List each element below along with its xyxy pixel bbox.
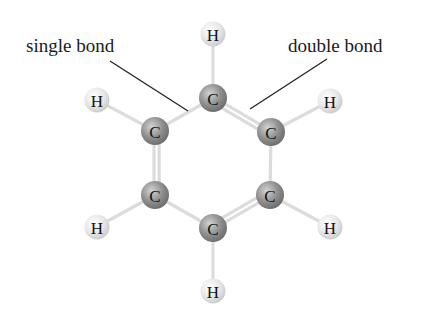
carbon-atom: C [257, 118, 285, 146]
hydrogen-atom: H [85, 88, 110, 113]
benzene-diagram: HCCCCCCHHHHH single bond double bond [0, 0, 430, 327]
atom-symbol: H [207, 283, 219, 302]
hydrogen-atom: H [318, 89, 343, 114]
hydrogen-atom: H [201, 279, 226, 304]
hydrogen-atom: H [85, 215, 110, 240]
atom-symbol: H [91, 219, 103, 238]
single-bond-leader [110, 61, 188, 111]
carbon-atom: C [141, 181, 169, 209]
atom-symbol: C [149, 187, 160, 206]
single-bond-label: single bond [26, 35, 115, 56]
hydrogen-atom: H [318, 215, 343, 240]
atom-symbol: H [324, 93, 336, 112]
molecule-svg: HCCCCCCHHHHH single bond double bond [0, 0, 430, 327]
atom-symbol: H [91, 92, 103, 111]
atom-symbol: H [324, 219, 336, 238]
atom-symbol: C [149, 123, 160, 142]
bonds-layer [97, 34, 330, 291]
atom-symbol: C [207, 220, 218, 239]
carbon-atom: C [199, 84, 227, 112]
carbon-atom: C [141, 117, 169, 145]
atom-symbol: C [264, 187, 275, 206]
carbon-atom: C [199, 214, 227, 242]
atom-symbol: C [265, 124, 276, 143]
double-bond-label: double bond [288, 35, 383, 56]
hydrogen-atom: H [201, 22, 226, 47]
double-bond-leader [250, 59, 327, 109]
atom-symbol: H [207, 26, 219, 45]
atom-symbol: C [207, 90, 218, 109]
carbon-atom: C [256, 181, 284, 209]
